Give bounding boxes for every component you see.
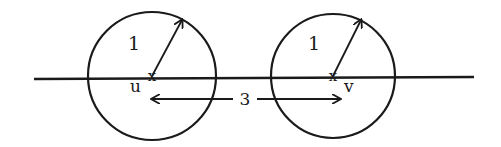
radius-arrow-u <box>152 20 182 76</box>
distance-label: 3 <box>240 89 251 109</box>
center-mark-u-icon: x <box>148 67 157 85</box>
radius-label-u: 1 <box>128 32 140 54</box>
center-mark-v-icon: x <box>329 67 338 85</box>
node-label-u: u <box>130 76 141 96</box>
axis-line <box>34 77 474 79</box>
node-label-v: v <box>343 76 354 96</box>
radius-label-v: 1 <box>308 32 320 54</box>
distance-diagram: x 1 u x 1 v 3 <box>0 0 501 147</box>
